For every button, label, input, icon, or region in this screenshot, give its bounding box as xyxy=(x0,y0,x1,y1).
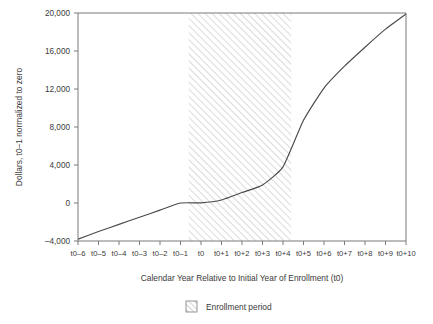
y-tick-label: 12,000 xyxy=(45,85,70,94)
x-tick-label: t0+6 xyxy=(317,249,332,258)
x-axis-ticks xyxy=(78,241,406,245)
y-tick-label: 8,000 xyxy=(50,123,71,132)
legend-swatch-enrollment-period xyxy=(186,301,197,312)
x-tick-label: t0+2 xyxy=(235,249,250,258)
x-tick-label: t0–4 xyxy=(112,249,127,258)
y-tick-label: 0 xyxy=(65,199,70,208)
x-axis-tick-labels: t0–6t0–5t0–4t0–3t0–2t0–1t0t0+1t0+2t0+3t0… xyxy=(71,249,416,258)
x-tick-label: t0–5 xyxy=(91,249,106,258)
x-tick-label: t0–2 xyxy=(153,249,168,258)
x-tick-label: t0–1 xyxy=(173,249,188,258)
chart-legend: Enrollment period xyxy=(186,301,272,312)
x-tick-label: t0+7 xyxy=(337,249,352,258)
legend-label-enrollment-period: Enrollment period xyxy=(206,302,272,312)
y-tick-label: 16,000 xyxy=(45,47,70,56)
x-tick-label: t0 xyxy=(198,249,204,258)
x-tick-label: t0+9 xyxy=(378,249,393,258)
y-tick-label: –4,000 xyxy=(45,237,70,246)
x-tick-label: t0+4 xyxy=(276,249,291,258)
line-chart: 20,000 16,000 12,000 8,000 4,000 0 –4,00… xyxy=(0,0,433,324)
x-tick-label: t0+10 xyxy=(396,249,415,258)
x-axis-title: Calendar Year Relative to Initial Year o… xyxy=(141,273,344,283)
enrollment-period-band xyxy=(189,13,292,241)
y-tick-label: 4,000 xyxy=(50,161,71,170)
y-tick-label: 20,000 xyxy=(45,9,70,18)
y-axis-title: Dollars, t0–1 normalized to zero xyxy=(14,68,24,187)
y-axis-tick-labels: 20,000 16,000 12,000 8,000 4,000 0 –4,00… xyxy=(45,9,70,246)
x-tick-label: t0–6 xyxy=(71,249,86,258)
y-axis-ticks xyxy=(74,13,78,241)
x-tick-label: t0–3 xyxy=(132,249,147,258)
x-tick-label: t0+5 xyxy=(296,249,311,258)
x-tick-label: t0+3 xyxy=(255,249,270,258)
x-tick-label: t0+1 xyxy=(214,249,229,258)
x-tick-label: t0+8 xyxy=(358,249,373,258)
chart-figure: 20,000 16,000 12,000 8,000 4,000 0 –4,00… xyxy=(0,0,433,324)
